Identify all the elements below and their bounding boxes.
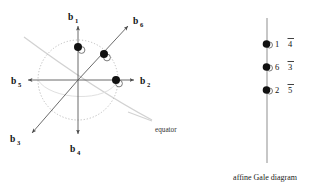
point-marker-b1	[74, 43, 85, 53]
equator-label: equator	[155, 126, 177, 134]
vector-label-b3-sub: 3	[17, 139, 21, 146]
vector-label-b3: b 3	[10, 134, 21, 146]
figure-caption: affine Gale diagram	[233, 173, 298, 182]
vector-label-b1: b 1	[68, 12, 78, 24]
right-gale-diagram: 1 4 6 3 2	[233, 18, 298, 182]
gale-row-barred-group: 4	[288, 39, 295, 50]
vector-label-b6: b 6	[133, 16, 144, 28]
point-marker-b2	[112, 76, 122, 87]
vector-label-b2-sub: 2	[147, 81, 151, 88]
gale-filled-dot	[263, 86, 271, 94]
gale-row-number: 6	[275, 62, 279, 72]
gale-filled-dot	[263, 63, 271, 71]
gale-row-barred: 5	[288, 85, 292, 95]
vector-label-b2-base: b	[140, 76, 145, 86]
vector-b3-arrow	[32, 80, 78, 133]
vector-label-b5-sub: 5	[18, 81, 22, 88]
vector-label-b1-sub: 1	[75, 17, 78, 24]
gale-row-barred: 4	[288, 39, 293, 49]
vector-label-b5-base: b	[11, 76, 16, 86]
vector-label-b5: b 5	[11, 76, 22, 88]
vector-label-b4: b 4	[70, 144, 81, 156]
left-sphere-diagram: b 1 b 6 b 2 b 4 b 5 b 3	[10, 12, 177, 156]
figure-svg: b 1 b 6 b 2 b 4 b 5 b 3	[0, 0, 314, 188]
vector-label-b6-base: b	[133, 16, 138, 26]
vector-label-b4-base: b	[70, 144, 75, 154]
gale-row-number: 1	[275, 39, 279, 49]
vector-label-b2: b 2	[140, 76, 151, 88]
gale-filled-dot	[263, 40, 271, 48]
vector-label-b4-sub: 4	[77, 149, 81, 156]
gale-row-number: 2	[275, 85, 279, 95]
equator-line	[24, 37, 152, 120]
vector-label-b6-sub: 6	[140, 21, 144, 28]
gale-row-barred: 3	[288, 62, 292, 72]
point-marker-b6	[100, 50, 110, 61]
figure-container: b 1 b 6 b 2 b 4 b 5 b 3	[0, 0, 314, 188]
vector-label-b3-base: b	[10, 134, 15, 144]
gale-row-barred-group: 3	[288, 62, 295, 73]
vector-label-b1-base: b	[68, 12, 73, 22]
gale-row-barred-group: 5	[288, 85, 295, 96]
